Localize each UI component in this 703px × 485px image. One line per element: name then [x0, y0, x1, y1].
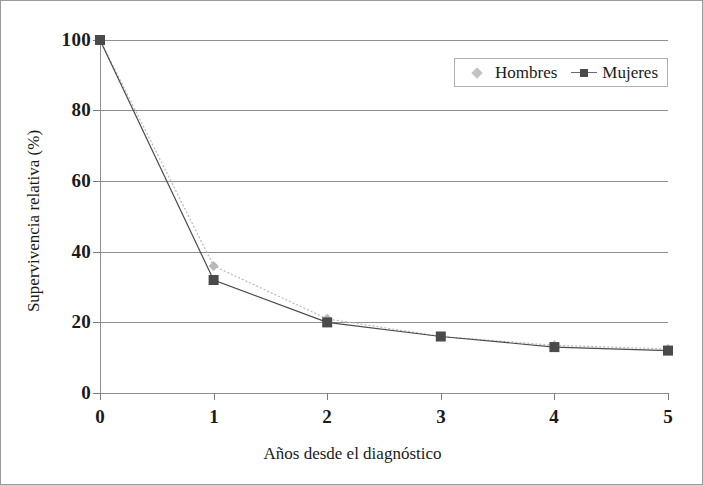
y-tick-label-100: 100 — [31, 29, 91, 51]
legend-label-mujeres: Mujeres — [602, 63, 658, 83]
x-tick-mark — [327, 393, 328, 400]
x-tick-label-1: 1 — [209, 406, 219, 428]
gridline-60 — [100, 181, 668, 182]
y-tick-label-0: 0 — [31, 382, 91, 404]
gridline-100 — [100, 40, 668, 41]
x-tick-label-3: 3 — [436, 406, 446, 428]
y-tick-mark — [93, 110, 100, 111]
diamond-swatch — [471, 67, 482, 78]
gridline-0 — [100, 393, 668, 394]
gridline-80 — [100, 110, 668, 111]
x-tick-label-4: 4 — [549, 406, 559, 428]
x-tick-label-0: 0 — [95, 406, 105, 428]
y-tick-mark — [93, 252, 100, 253]
chart-figure: 100 80 60 40 20 0 0 1 2 3 4 5 Años desde… — [0, 0, 703, 485]
y-tick-mark — [93, 181, 100, 182]
legend-entry-hombres: Hombres — [464, 63, 557, 83]
gridline-20 — [100, 322, 668, 323]
y-tick-mark — [93, 393, 100, 394]
square-marker-icon — [571, 66, 597, 80]
x-tick-mark — [214, 393, 215, 400]
x-tick-label-5: 5 — [663, 406, 673, 428]
plot-area — [100, 40, 668, 393]
gridline-40 — [100, 252, 668, 253]
y-tick-mark — [93, 322, 100, 323]
x-tick-label-2: 2 — [322, 406, 332, 428]
x-tick-mark — [100, 393, 101, 400]
y-axis-title: Supervivencia relativa (%) — [24, 91, 44, 351]
x-axis-title: Años desde el diagnóstico — [1, 444, 703, 464]
chart-legend: Hombres Mujeres — [454, 58, 668, 87]
legend-label-hombres: Hombres — [495, 63, 557, 83]
diamond-marker-icon — [464, 66, 490, 80]
y-axis-line — [100, 40, 101, 393]
square-swatch — [580, 69, 588, 77]
legend-entry-mujeres: Mujeres — [571, 63, 658, 83]
x-tick-mark — [554, 393, 555, 400]
x-tick-mark — [441, 393, 442, 400]
y-tick-mark — [93, 40, 100, 41]
x-tick-mark — [668, 393, 669, 400]
